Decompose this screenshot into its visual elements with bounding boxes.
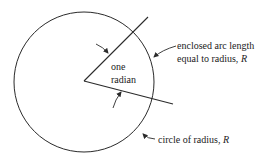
angle-label-line1: one	[111, 61, 125, 72]
arc-label-line1: enclosed arc length	[177, 40, 254, 51]
lower-angle-arrow	[113, 92, 121, 108]
circle-label-text: circle of radius,	[158, 134, 223, 145]
angle-label-line2: radian	[111, 74, 136, 85]
arc-label-variable: R	[241, 53, 247, 64]
circle-label: circle of radius, R	[158, 134, 229, 145]
arc-label-text: equal to radius,	[177, 53, 241, 64]
circle-pointer	[143, 134, 155, 139]
upper-angle-arrow	[96, 44, 108, 53]
arc-label-line2: equal to radius, R	[177, 53, 247, 64]
arc-length-pointer	[154, 46, 176, 57]
circle-label-variable: R	[223, 134, 229, 145]
